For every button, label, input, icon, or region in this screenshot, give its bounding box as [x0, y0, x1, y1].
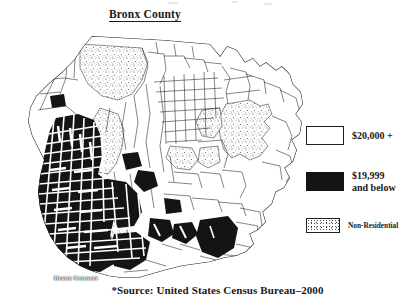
scan-artifact	[232, 1, 238, 3]
source-note: *Source: United States Census Bureau–200…	[0, 284, 413, 296]
legend-label-low-income-line1: $19,999	[352, 170, 396, 182]
non-residential-tract	[60, 38, 78, 52]
place-marker-dot	[49, 278, 51, 280]
scan-artifact	[264, 3, 272, 5]
map-figure: Bronx County	[0, 0, 413, 308]
legend-label-low-income-line2: and below	[352, 182, 396, 194]
bronx-county-map-svg[interactable]	[14, 22, 306, 280]
legend-label-high-income: $20,000 +	[352, 130, 393, 142]
legend-item-non-residential[interactable]: Non-Residential	[306, 218, 398, 233]
legend-item-low-income[interactable]: $19,999 and below	[306, 170, 396, 193]
page-title: Bronx County	[0, 8, 290, 20]
legend-label-non-residential: Non-Residential	[348, 221, 398, 230]
low-income-tract	[50, 94, 66, 108]
non-residential-tract	[218, 100, 272, 160]
map-tract-layer	[14, 22, 306, 280]
legend-swatch-low-income	[306, 172, 344, 191]
legend-swatch-high-income	[306, 126, 344, 145]
legend-item-high-income[interactable]: $20,000 +	[306, 126, 393, 145]
page-title-text: Bronx County	[109, 8, 181, 22]
legend-label-low-income: $19,999 and below	[352, 170, 396, 193]
map-canvas[interactable]: Bronx Connect	[14, 22, 306, 280]
scan-artifact	[168, 2, 178, 4]
low-income-tract	[164, 198, 182, 214]
legend-swatch-non-residential	[306, 218, 340, 233]
